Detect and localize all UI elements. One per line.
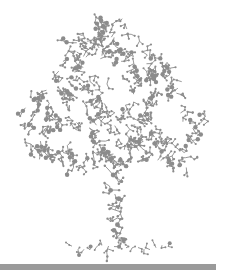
molecular-tree-illustration — [0, 0, 228, 278]
ground-bar — [0, 264, 216, 270]
tree-canopy — [16, 13, 209, 177]
tree-roots — [65, 239, 173, 257]
